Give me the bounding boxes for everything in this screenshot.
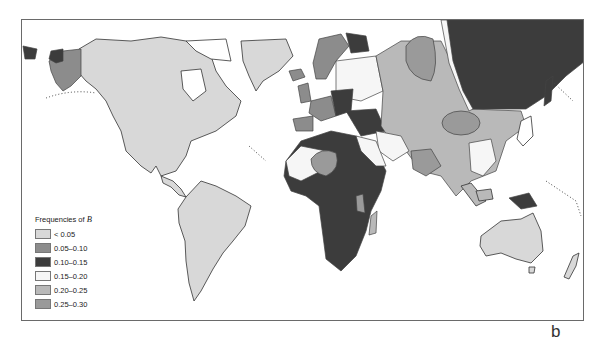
caribbean-islands [249,146,266,161]
iberia [293,116,313,131]
central-america [161,176,186,197]
britain [298,83,311,103]
greenland [241,39,293,91]
legend: Frequencies of B < 0.05 0.05–0.10 0.10–0… [35,214,125,311]
legend-title-variable: B [87,214,92,224]
legend-item: 0.05–0.10 [35,241,125,255]
legend-swatch [35,257,51,267]
legend-label: 0.20–0.25 [54,286,87,295]
legend-item: 0.25–0.30 [35,297,125,311]
legend-label: 0.10–0.15 [54,258,87,267]
new-zealand [564,253,579,279]
borneo [476,189,493,201]
legend-title: Frequencies of B [35,214,125,224]
east-africa-region [356,194,365,213]
legend-item: 0.10–0.15 [35,255,125,269]
finland-region [346,33,369,53]
legend-swatch [35,299,51,309]
aleutian-islands [46,92,96,98]
pacific-islands [546,181,581,216]
iceland [289,69,305,81]
legend-label: 0.05–0.10 [54,244,87,253]
australia [480,213,543,263]
legend-label: < 0.05 [54,230,75,239]
new-guinea [509,193,537,209]
legend-item: 0.20–0.25 [35,283,125,297]
world-map: Frequencies of B < 0.05 0.05–0.10 0.10–0… [21,19,584,321]
legend-title-text: Frequencies of [35,215,87,224]
legend-swatch [35,229,51,239]
panel-label: b [551,322,560,342]
tasmania [529,267,535,273]
legend-label: 0.25–0.30 [54,300,87,309]
legend-label: 0.15–0.20 [54,272,87,281]
legend-swatch [35,271,51,281]
chukotka-region [23,46,37,59]
south-america [178,181,251,301]
kuril-islands [554,83,573,101]
mongolia-region [442,111,480,135]
legend-item: < 0.05 [35,227,125,241]
legend-item: 0.15–0.20 [35,269,125,283]
legend-swatch [35,285,51,295]
legend-swatch [35,243,51,253]
